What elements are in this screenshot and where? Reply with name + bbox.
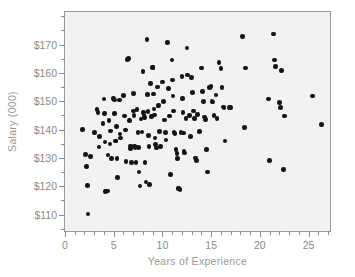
x-tick-minor [270,231,271,235]
x-tick-minor [328,231,329,235]
data-point [171,94,176,99]
data-point [138,184,143,189]
data-point [156,103,161,108]
data-point [310,94,315,99]
data-point [266,97,271,102]
y-tick-label: $130 [34,152,57,164]
data-point [137,170,142,175]
data-point [136,145,141,150]
data-point [223,139,228,144]
data-point [162,118,167,123]
data-point [157,129,162,134]
data-point [118,136,123,141]
y-tick-minor [61,144,65,145]
data-point [205,170,210,175]
data-point [102,97,107,102]
data-point [85,183,90,188]
x-tick-minor [318,231,319,235]
x-tick-minor [94,231,95,235]
data-point [178,187,183,192]
data-point [267,158,272,163]
x-tick-minor [123,231,124,235]
y-tick-major [59,186,65,187]
data-point [152,107,157,112]
data-point [279,68,284,73]
x-tick-minor [250,231,251,235]
y-tick-major [59,215,65,216]
x-tick-major [162,231,163,237]
data-point [131,91,136,96]
data-point [185,46,190,51]
data-point [134,160,139,165]
data-point [168,172,173,177]
x-tick-minor [221,231,222,235]
data-point [115,156,120,161]
data-point [140,130,145,135]
y-tick-major [59,101,65,102]
x-tick-minor [231,231,232,235]
data-point [112,111,117,116]
y-tick-minor [61,115,65,116]
data-point [277,100,282,105]
x-tick-major [309,231,310,237]
y-tick-minor [61,30,65,31]
data-point [86,212,91,217]
data-point [171,109,176,114]
data-point [228,105,233,110]
data-point [164,138,169,143]
x-tick-minor [172,231,173,235]
x-tick-minor [153,231,154,235]
data-point [190,90,195,95]
data-point [170,58,175,63]
x-tick-label: 0 [62,239,68,251]
data-point [272,58,277,63]
x-tick-minor [192,231,193,235]
x-tick-minor [182,231,183,235]
x-tick-minor [84,231,85,235]
data-point [165,40,170,45]
data-point [127,118,132,123]
data-point [180,96,185,101]
data-point [158,144,163,149]
data-point [281,167,286,172]
data-point [220,85,225,90]
data-point [273,64,278,69]
x-tick-label: 15 [205,239,217,251]
data-points-layer [65,12,330,231]
data-point [173,131,178,136]
x-tick-label: 5 [111,239,117,251]
x-tick-minor [143,231,144,235]
data-point [243,66,248,71]
y-tick-minor [61,87,65,88]
data-point [121,93,126,98]
data-point [222,105,227,110]
data-point [204,147,209,152]
data-point [97,134,102,139]
y-tick-label: $170 [34,39,57,51]
data-point [152,113,157,118]
data-point [153,136,158,141]
y-tick-minor [61,172,65,173]
data-point [271,32,276,37]
data-point [151,92,156,97]
data-point [242,125,247,130]
data-point [189,75,194,80]
data-point [175,156,180,161]
data-point [214,93,219,98]
y-tick-label: $140 [34,124,57,136]
data-point [170,78,175,83]
data-point [143,160,148,165]
data-point [163,130,168,135]
y-tick-minor [61,59,65,60]
data-point [215,116,220,121]
data-point [123,128,128,133]
x-tick-minor [201,231,202,235]
y-tick-label: $120 [34,180,57,192]
data-point [126,56,131,61]
data-point [145,92,150,97]
data-point [146,109,151,114]
data-point [109,156,114,161]
data-point [135,107,140,112]
data-point [181,131,186,136]
x-tick-minor [279,231,280,235]
